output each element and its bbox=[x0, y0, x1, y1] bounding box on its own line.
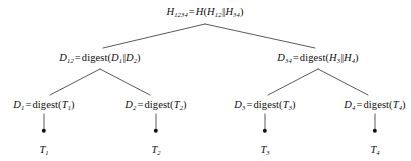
edge-d12-to-d2 bbox=[100, 69, 150, 95]
node-root-h1234: H1234=H(H12||H34) bbox=[167, 7, 244, 18]
transaction-label-t1: T1 bbox=[39, 145, 48, 156]
edge-d34-to-d3 bbox=[268, 69, 318, 95]
tree-edges bbox=[0, 0, 411, 161]
node-internal-d34: D34=digest(H3||H4) bbox=[277, 53, 358, 64]
transaction-label-t3: T3 bbox=[260, 145, 269, 156]
transaction-label-t4: T4 bbox=[370, 145, 379, 156]
edge-root-to-d12 bbox=[103, 24, 205, 48]
merkle-tree-diagram: H1234=H(H12||H34) D12=digest(D1||D2) D34… bbox=[0, 0, 411, 161]
edge-d12-to-d1 bbox=[50, 69, 100, 95]
node-leaf-d1: D1=digest(T1) bbox=[13, 100, 74, 111]
transaction-label-t2: T2 bbox=[151, 145, 160, 156]
node-leaf-d2: D2=digest(T2) bbox=[125, 100, 186, 111]
edge-root-to-d34 bbox=[205, 24, 315, 48]
node-internal-d12: D12=digest(D1||D2) bbox=[59, 53, 140, 64]
edge-d34-to-d4 bbox=[318, 69, 368, 95]
node-leaf-d4: D4=digest(T4) bbox=[344, 100, 405, 111]
node-leaf-d3: D3=digest(T3) bbox=[234, 100, 295, 111]
